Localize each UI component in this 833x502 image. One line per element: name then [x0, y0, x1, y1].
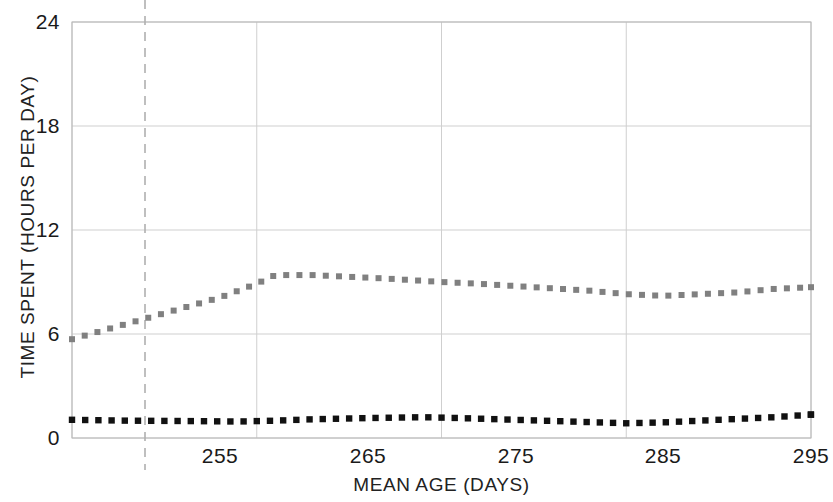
series-dot — [95, 417, 101, 423]
series-dot — [636, 420, 642, 426]
series-dot — [597, 419, 603, 425]
series-dot — [729, 416, 735, 422]
series-dot — [171, 308, 177, 314]
series-dot — [69, 336, 75, 342]
series-dot — [692, 291, 698, 297]
series-dot — [639, 292, 645, 298]
series-dot — [82, 417, 88, 423]
series-dot — [362, 275, 368, 281]
series-dot — [520, 284, 526, 290]
series-dot — [702, 417, 708, 423]
series-dot — [280, 417, 286, 423]
series-dot — [531, 417, 537, 423]
series-dot — [349, 274, 355, 280]
series-dot — [145, 315, 151, 321]
series-dot — [183, 304, 189, 310]
series-dot — [415, 278, 421, 284]
series-dot — [586, 288, 592, 294]
series-dot — [557, 418, 563, 424]
series-dot — [689, 418, 695, 424]
series-dot — [583, 419, 589, 425]
series-dot — [412, 414, 418, 420]
series-dot — [161, 418, 167, 424]
series-dot — [600, 289, 606, 295]
series-dot — [196, 300, 202, 306]
series-dot — [336, 273, 342, 279]
series-dot — [188, 418, 194, 424]
series-dot — [768, 414, 774, 420]
series-dot — [221, 293, 227, 299]
series-dot — [120, 322, 126, 328]
series-dot — [201, 418, 207, 424]
series-dot — [389, 276, 395, 282]
series-dot — [402, 277, 408, 283]
series-dot — [108, 417, 114, 423]
series-dot — [784, 285, 790, 291]
series-dot — [346, 415, 352, 421]
series-dot — [425, 414, 431, 420]
series-dot — [808, 284, 814, 290]
series-dot — [94, 329, 100, 335]
series-dot — [246, 284, 252, 290]
series-dot — [158, 311, 164, 317]
series-dot — [679, 292, 685, 298]
series-dot — [234, 288, 240, 294]
series-dot — [652, 292, 658, 298]
series-dot — [534, 284, 540, 290]
series-dot — [797, 285, 803, 291]
series-dot — [270, 273, 276, 279]
series-dot — [715, 417, 721, 423]
series-dot — [455, 280, 461, 286]
series-dot — [808, 411, 814, 417]
series-dot — [359, 415, 365, 421]
series-dot — [560, 286, 566, 292]
series-dot — [610, 420, 616, 426]
series-dot — [676, 418, 682, 424]
series-dot — [649, 419, 655, 425]
series-dot — [465, 415, 471, 421]
series-dot — [758, 287, 764, 293]
series-dot — [481, 281, 487, 287]
series-dot — [293, 417, 299, 423]
series-dot — [478, 416, 484, 422]
series-dot — [613, 290, 619, 296]
series-dot — [718, 290, 724, 296]
series-dot — [507, 283, 513, 289]
series-dot — [547, 285, 553, 291]
series-dot — [122, 417, 128, 423]
series-dot — [209, 297, 215, 303]
series-dot — [296, 272, 302, 278]
series-dot — [306, 416, 312, 422]
series-dot — [468, 280, 474, 286]
series-dot — [705, 291, 711, 297]
series-dot — [663, 419, 669, 425]
series-dot — [69, 417, 75, 423]
series-dot — [771, 286, 777, 292]
series-dot — [665, 293, 671, 299]
grid-lines — [72, 22, 811, 438]
series-dot — [794, 412, 800, 418]
series-dot — [174, 418, 180, 424]
series-dot — [148, 418, 154, 424]
series-dot — [742, 415, 748, 421]
series-dot — [372, 415, 378, 421]
series-dot — [82, 333, 88, 339]
series-dot — [283, 272, 289, 278]
series-dot — [258, 279, 264, 285]
series-dot — [573, 287, 579, 293]
series-dot — [517, 417, 523, 423]
series-dot — [254, 418, 260, 424]
series-dot — [376, 275, 382, 281]
series-dot — [491, 416, 497, 422]
series-dot — [135, 418, 141, 424]
series-dot — [323, 273, 329, 279]
series-dot — [744, 288, 750, 294]
series-dot — [310, 272, 316, 278]
series-dot — [133, 318, 139, 324]
series-dot — [544, 418, 550, 424]
series-dot — [570, 418, 576, 424]
series-dot — [494, 282, 500, 288]
series-dot — [626, 291, 632, 297]
